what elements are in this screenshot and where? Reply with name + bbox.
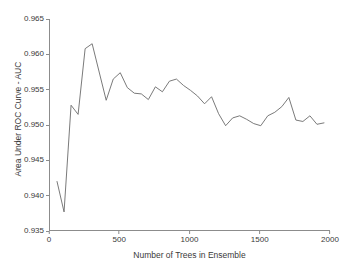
y-tick-0.950: 0.950 (24, 119, 49, 131)
y-tick-label: 0.950 (24, 121, 46, 129)
x-tick-mark (259, 231, 260, 234)
x-tick-mark (329, 231, 330, 234)
y-tick-0.955: 0.955 (24, 84, 49, 96)
y-tick-label: 0.960 (24, 50, 46, 58)
x-tick-label: 2000 (321, 236, 339, 244)
x-tick-1500: 1500 (251, 231, 269, 244)
x-tick-2000: 2000 (321, 231, 339, 244)
y-axis-title: Area Under ROC Curve - AUC (13, 39, 23, 199)
x-tick-mark (119, 231, 120, 234)
y-tick-label: 0.945 (24, 156, 46, 164)
y-tick-0.960: 0.960 (24, 48, 49, 60)
x-tick-500: 500 (113, 231, 126, 244)
y-tick-0.940: 0.940 (24, 190, 49, 202)
x-axis-title: Number of Trees in Ensemble (49, 250, 330, 260)
plot-area (49, 19, 330, 231)
y-tick-label: 0.965 (24, 15, 46, 23)
y-tick-0.965: 0.965 (24, 13, 49, 25)
x-tick-label: 1500 (251, 236, 269, 244)
x-tick-1000: 1000 (181, 231, 199, 244)
x-tick-label: 1000 (181, 236, 199, 244)
x-tick-mark (48, 231, 49, 234)
data-line-series (50, 19, 331, 231)
x-tick-mark (189, 231, 190, 234)
x-tick-label: 500 (113, 236, 126, 244)
x-tick-label: 0 (47, 236, 51, 244)
x-axis-ticks: 0500100015002000 (0, 231, 348, 251)
y-tick-0.945: 0.945 (24, 154, 49, 166)
y-axis-ticks: 0.9350.9400.9450.9500.9550.9600.965 (0, 0, 49, 232)
y-tick-label: 0.940 (24, 192, 46, 200)
y-tick-label: 0.955 (24, 86, 46, 94)
auc-line (57, 44, 324, 212)
x-tick-0: 0 (47, 231, 51, 244)
chart-figure: 0.9350.9400.9450.9500.9550.9600.965 0500… (0, 0, 348, 272)
